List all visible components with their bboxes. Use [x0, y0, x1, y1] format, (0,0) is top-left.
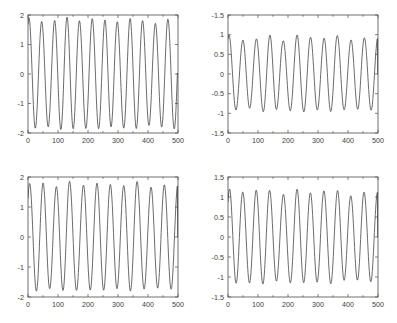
x-tick-label: 0: [226, 136, 230, 145]
subplot-bottom-right: 0100200300400500-1.5-1-0.500.511.5: [199, 163, 397, 323]
y-tick-label: 0.5: [214, 50, 224, 59]
x-tick-label: 400: [142, 136, 154, 145]
subplot-top-left: 0100200300400500-2-1012: [0, 0, 198, 162]
x-tick-label: 200: [82, 136, 94, 145]
y-tick-label: 0.5: [214, 213, 224, 222]
x-tick-label: 300: [112, 300, 124, 309]
plot-svg-top-left: 0100200300400500-2-1012: [0, 0, 198, 162]
y-tick-label: -1: [18, 263, 24, 272]
x-tick-label: 0: [226, 300, 230, 309]
y-tick-label: 0: [20, 233, 24, 242]
y-tick-label: -1.5: [212, 129, 224, 138]
x-tick-label: 300: [112, 136, 124, 145]
x-tick-label: 500: [172, 300, 184, 309]
y-tick-label: 1.5: [214, 173, 224, 182]
x-tick-label: 200: [82, 300, 94, 309]
y-tick-label: 1: [20, 203, 24, 212]
x-tick-label: 100: [52, 300, 64, 309]
y-tick-label: 1: [220, 193, 224, 202]
y-tick-label: 0: [20, 70, 24, 79]
y-tick-label: 2: [20, 11, 24, 20]
y-tick-label: -0.5: [212, 253, 224, 262]
signal-line: [228, 35, 378, 112]
y-tick-label: 2: [20, 173, 24, 182]
x-tick-label: 500: [372, 136, 384, 145]
axis-frame: [28, 15, 178, 133]
plot-svg-bottom-right: 0100200300400500-1.5-1-0.500.511.5: [199, 163, 397, 323]
y-tick-label: -1.5: [212, 11, 224, 20]
y-tick-label: 0: [220, 233, 224, 242]
y-tick-label: 1: [220, 30, 224, 39]
x-tick-label: 500: [372, 300, 384, 309]
signal-line: [28, 17, 178, 129]
x-tick-label: 400: [342, 136, 354, 145]
signal-line: [28, 181, 178, 291]
subplot-bottom-left: 0100200300400500-2-1012: [0, 163, 198, 323]
x-tick-label: 100: [252, 300, 264, 309]
y-tick-label: -2: [18, 293, 24, 302]
figure-canvas: 0100200300400500-2-1012 0100200300400500…: [0, 0, 397, 323]
y-tick-label: -1: [18, 99, 24, 108]
y-tick-label: -1: [218, 109, 224, 118]
x-tick-label: 300: [312, 136, 324, 145]
y-tick-label: -1.5: [212, 293, 224, 302]
x-tick-label: 200: [282, 300, 294, 309]
y-tick-label: 1: [20, 40, 24, 49]
subplot-top-right: 0100200300400500-1.5-1-0.500.51-1.5: [199, 0, 397, 162]
axis-frame: [228, 15, 378, 133]
x-tick-label: 500: [172, 136, 184, 145]
x-tick-label: 100: [252, 136, 264, 145]
signal-line: [228, 189, 378, 284]
y-tick-label: 0: [220, 70, 224, 79]
y-tick-label: -2: [18, 129, 24, 138]
x-tick-label: 300: [312, 300, 324, 309]
x-tick-label: 400: [342, 300, 354, 309]
x-tick-label: 200: [282, 136, 294, 145]
x-tick-label: 400: [142, 300, 154, 309]
x-tick-label: 100: [52, 136, 64, 145]
plot-svg-bottom-left: 0100200300400500-2-1012: [0, 163, 198, 323]
axis-frame: [28, 177, 178, 297]
x-tick-label: 0: [26, 300, 30, 309]
plot-svg-top-right: 0100200300400500-1.5-1-0.500.51-1.5: [199, 0, 397, 162]
x-tick-label: 0: [26, 136, 30, 145]
y-tick-label: -1: [218, 273, 224, 282]
y-tick-label: -0.5: [212, 89, 224, 98]
